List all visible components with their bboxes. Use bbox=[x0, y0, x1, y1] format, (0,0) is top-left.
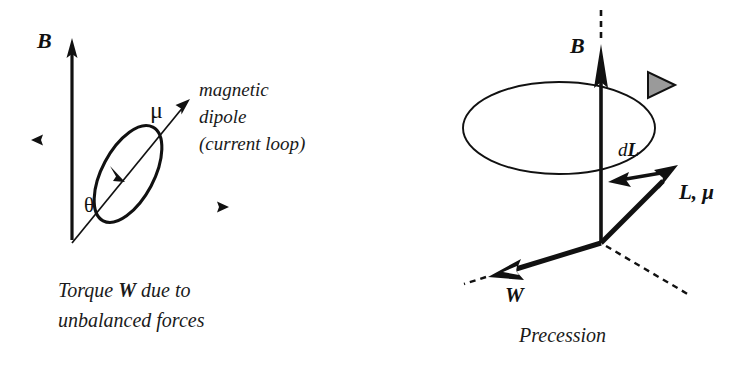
figure-canvas: θ B μ magnetic dipole (current loop) Tor… bbox=[0, 0, 748, 375]
b-field-arrow-right bbox=[594, 44, 608, 243]
annotation-line-2: dipole bbox=[199, 106, 247, 127]
annotation-line-1: magnetic bbox=[199, 79, 269, 100]
force-arrowhead-left bbox=[31, 135, 43, 146]
b-field-label-left: B bbox=[36, 28, 52, 53]
left-caption-torque-symbol: W bbox=[118, 279, 137, 301]
left-caption-suffix: due to bbox=[136, 279, 190, 301]
dl-label: dL bbox=[618, 139, 639, 160]
force-arrowhead-right bbox=[217, 202, 229, 213]
torque-label: W bbox=[505, 283, 525, 307]
b-field-label-right: B bbox=[569, 33, 585, 58]
torque-shaft bbox=[516, 243, 601, 269]
dl-label-L: L bbox=[627, 139, 640, 160]
current-direction-arrowhead bbox=[110, 166, 125, 182]
left-caption-line-1: Torque W due to bbox=[58, 279, 190, 302]
precession-direction-arrowhead bbox=[648, 72, 675, 98]
left-caption-line-2: unbalanced forces bbox=[58, 309, 205, 332]
dl-label-d: d bbox=[618, 139, 628, 160]
precession-circle bbox=[463, 82, 655, 174]
mu-dipole-arrow bbox=[72, 99, 190, 243]
annotation-line-3: (current loop) bbox=[199, 133, 305, 155]
angular-momentum-label: L, μ bbox=[678, 180, 714, 204]
reference-axis-dashed-right bbox=[606, 246, 691, 296]
physics-figure-svg: θ B μ magnetic dipole (current loop) Tor… bbox=[0, 0, 748, 375]
right-panel-group: B dL L, μ bbox=[463, 10, 714, 346]
angular-momentum-shaft bbox=[601, 181, 663, 243]
mu-arrowhead bbox=[176, 99, 191, 115]
theta-label: θ bbox=[84, 193, 94, 217]
b-field-arrowhead-right bbox=[594, 44, 608, 88]
b-field-arrow-left bbox=[67, 38, 78, 240]
left-panel-group: θ B μ magnetic dipole (current loop) Tor… bbox=[31, 28, 305, 332]
reference-axis-dashed-left bbox=[464, 277, 486, 284]
mu-label-left: μ bbox=[150, 97, 163, 123]
torque-arrow bbox=[488, 243, 601, 280]
mu-shaft bbox=[72, 106, 184, 243]
left-caption-prefix: Torque bbox=[58, 279, 118, 302]
right-caption: Precession bbox=[518, 324, 606, 346]
